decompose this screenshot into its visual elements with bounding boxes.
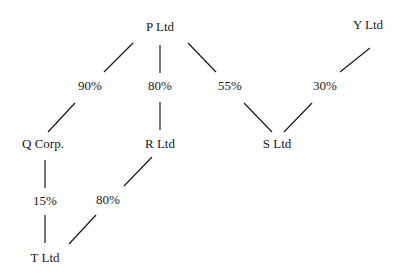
labels-layer: 90%80%55%30%15%80% bbox=[33, 78, 337, 208]
edge-p-q-upper-line bbox=[104, 43, 133, 72]
nodes-layer: P LtdY LtdQ Corp.R LtdS LtdT Ltd bbox=[22, 17, 384, 265]
node-y: Y Ltd bbox=[353, 17, 384, 32]
edge-p-q-lower-line bbox=[48, 103, 75, 132]
edges-layer bbox=[45, 43, 370, 244]
ownership-diagram: 90%80%55%30%15%80% P LtdY LtdQ Corp.R Lt… bbox=[0, 0, 407, 277]
edge-p-s-upper-line bbox=[188, 43, 216, 72]
node-q: Q Corp. bbox=[22, 136, 64, 151]
node-p: P Ltd bbox=[146, 19, 175, 34]
edge-p-q-percent-label: 90% bbox=[78, 78, 102, 93]
edge-p-r-percent-label: 80% bbox=[148, 78, 172, 93]
edge-y-s-lower-line bbox=[284, 103, 312, 132]
edge-p-s-lower-line bbox=[244, 103, 272, 132]
edge-r-t-lower-line bbox=[69, 215, 96, 244]
node-t: T Ltd bbox=[30, 250, 60, 265]
edge-p-s-percent-label: 55% bbox=[218, 78, 242, 93]
edge-y-s-upper-line bbox=[340, 48, 370, 72]
edge-r-t-percent-label: 80% bbox=[96, 192, 120, 207]
edge-y-s-percent-label: 30% bbox=[313, 78, 337, 93]
edge-r-t-upper-line bbox=[124, 157, 152, 186]
node-s: S Ltd bbox=[263, 136, 292, 151]
node-r: R Ltd bbox=[145, 136, 175, 151]
edge-q-t-percent-label: 15% bbox=[33, 193, 57, 208]
